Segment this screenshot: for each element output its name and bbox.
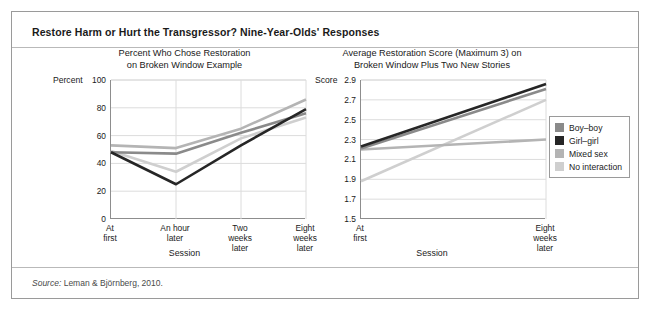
x-tick-label: At first [334, 223, 386, 243]
chart-legend: Boy–boyGirl–girlMixed sexNo interaction [549, 116, 630, 178]
x-tick-label: At first [84, 223, 136, 243]
legend-item[interactable]: Girl–girl [555, 134, 622, 147]
figure-container: Restore Harm or Hurt the Transgressor? N… [11, 11, 639, 299]
legend-item[interactable]: Mixed sex [555, 147, 622, 160]
chart-panel-left: Percent Who Chose Restoration on Broken … [52, 48, 317, 263]
x-axis-label-right: Session [312, 248, 552, 258]
y-tick-label: 1.9 [312, 174, 356, 184]
y-tick-label: 20 [52, 186, 106, 196]
legend-swatch-icon [555, 136, 564, 145]
y-tick-label: 2.5 [312, 115, 356, 125]
page-title: Restore Harm or Hurt the Transgressor? N… [32, 26, 379, 38]
source-label: Source: [32, 278, 61, 288]
legend-item[interactable]: No interaction [555, 160, 622, 173]
y-tick-label: 40 [52, 158, 106, 168]
source-citation: Leman & Björnberg, 2010. [61, 278, 163, 288]
series-line [361, 84, 546, 147]
y-tick-label: 100 [52, 75, 106, 85]
line-chart-left [111, 80, 306, 219]
legend-item-label: Girl–girl [569, 136, 599, 146]
y-tick-label: 2.7 [312, 95, 356, 105]
plot-area-left [110, 80, 305, 219]
legend-item[interactable]: Boy–boy [555, 121, 622, 134]
chart-title-right: Average Restoration Score (Maximum 3) on… [312, 48, 552, 71]
y-tick-label: 80 [52, 103, 106, 113]
y-tick-label: 2.1 [312, 154, 356, 164]
legend-item-label: Boy–boy [569, 123, 602, 133]
x-tick-label: An hour later [149, 223, 201, 243]
y-tick-label: 2.3 [312, 135, 356, 145]
y-tick-label: 60 [52, 131, 106, 141]
source-note: Source: Leman & Björnberg, 2010. [32, 278, 163, 288]
divider-bottom [12, 267, 638, 268]
legend-swatch-icon [555, 123, 564, 132]
line-chart-right [361, 80, 546, 219]
legend-item-label: Mixed sex [569, 149, 608, 159]
plot-area-right [360, 80, 545, 219]
series-line [111, 99, 306, 148]
legend-item-label: No interaction [569, 162, 622, 172]
legend-swatch-icon [555, 149, 564, 158]
y-tick-label: 1.7 [312, 194, 356, 204]
chart-title-left: Percent Who Chose Restoration on Broken … [52, 48, 317, 71]
chart-panel-right: Average Restoration Score (Maximum 3) on… [312, 48, 552, 263]
y-tick-label: 2.9 [312, 75, 356, 85]
legend-swatch-icon [555, 162, 564, 171]
x-axis-label-left: Session [52, 248, 317, 258]
